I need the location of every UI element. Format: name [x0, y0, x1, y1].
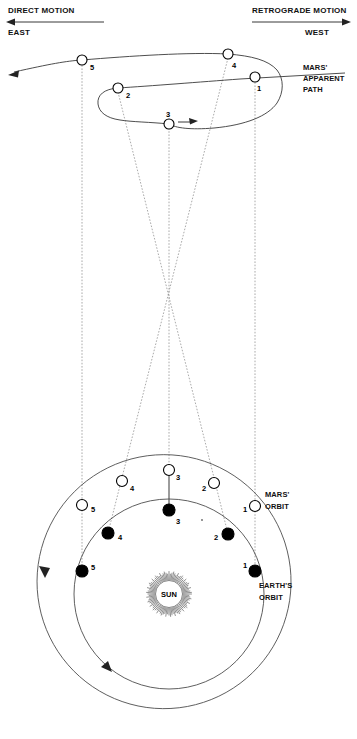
apparent-path-right-loop	[169, 70, 282, 129]
sky-marker-2	[113, 83, 123, 93]
sky-marker-4	[223, 49, 233, 59]
earth-marker-label-2: 2	[214, 533, 218, 542]
sky-marker-label-1: 1	[257, 84, 261, 93]
mars-apparent-path-line2: APPARENT	[303, 74, 345, 83]
earth-orbit-direction-arrow-icon	[101, 661, 112, 672]
mars-orbit-line2: ORBIT	[265, 502, 289, 511]
sky-marker-5	[77, 55, 87, 65]
mars-marker-3	[164, 465, 175, 476]
direct-motion-header: DIRECT MOTION EAST	[6, 6, 104, 37]
earth-marker-1	[249, 565, 261, 577]
sun-label: SUN	[161, 590, 177, 599]
earth-marker-2	[222, 528, 234, 540]
apparent-path-direction-arrow-icon	[189, 118, 198, 125]
mars-marker-2	[209, 478, 220, 489]
earth-orbit-line1: EARTH'S	[259, 581, 292, 590]
sun-ray	[183, 592, 192, 593]
earth-marker-4	[102, 527, 114, 539]
mars-apparent-path-line1: MARS'	[303, 63, 327, 72]
mars-marker-1	[250, 501, 261, 512]
sky-marker-label-3: 3	[166, 110, 170, 119]
sky-marker-label-5: 5	[90, 63, 94, 72]
mars-apparent-path-line3: PATH	[303, 85, 323, 94]
mars-marker-label-3: 3	[176, 473, 180, 482]
earth-marker-label-5: 5	[91, 563, 95, 572]
mars-marker-label-1: 1	[243, 505, 247, 514]
sky-marker-1	[250, 72, 260, 82]
sky-marker-3	[164, 119, 174, 129]
left-arrow-icon	[6, 19, 15, 26]
earth-marker-3	[163, 504, 175, 516]
right-arrow-icon	[342, 19, 351, 26]
earth-marker-label-1: 1	[243, 561, 247, 570]
earth-marker-label-3: 3	[176, 517, 180, 526]
mars-apparent-path-label: MARS' APPARENT PATH	[303, 63, 345, 94]
orbit-tick-dot	[201, 519, 203, 521]
mars-marker-label-2: 2	[202, 484, 206, 493]
apparent-path-left-arrow-icon	[8, 71, 19, 78]
apparent-path-upper-arc	[14, 53, 277, 72]
mars-marker-4	[117, 476, 128, 487]
earth-orbit-line2: ORBIT	[259, 593, 283, 602]
earth-marker-5	[76, 565, 88, 577]
sky-marker-label-2: 2	[126, 91, 130, 100]
earth-position-markers-group: 5 4 3 2 1	[76, 504, 261, 577]
east-label: EAST	[8, 28, 30, 37]
mars-orbit-label: MARS' ORBIT	[265, 490, 289, 511]
mars-apparent-path-group	[8, 53, 345, 128]
mars-orbit-line1: MARS'	[265, 490, 289, 499]
retrograde-motion-header: RETROGRADE MOTION WEST	[252, 6, 351, 37]
mars-marker-label-4: 4	[130, 484, 135, 493]
west-label: WEST	[305, 28, 329, 37]
sky-markers-group: 5 2 3 4 1	[77, 49, 261, 129]
apparent-path-lower-left-loop	[98, 88, 169, 124]
sight-lines-group	[82, 58, 255, 571]
direct-motion-label: DIRECT MOTION	[8, 6, 75, 15]
earth-marker-label-4: 4	[118, 533, 123, 542]
retrograde-motion-label: RETROGRADE MOTION	[252, 6, 347, 15]
sun-group: SUN	[146, 571, 192, 617]
mars-marker-label-5: 5	[91, 505, 95, 514]
retrograde-motion-diagram: DIRECT MOTION EAST RETROGRADE MOTION WES…	[0, 0, 357, 739]
diagram-canvas: DIRECT MOTION EAST RETROGRADE MOTION WES…	[0, 0, 357, 739]
sky-marker-label-4: 4	[232, 61, 237, 70]
mars-marker-5	[77, 500, 88, 511]
sun-ray	[170, 608, 171, 617]
sun-ray	[146, 592, 155, 593]
mars-orbit-direction-arrow-icon	[39, 566, 50, 578]
